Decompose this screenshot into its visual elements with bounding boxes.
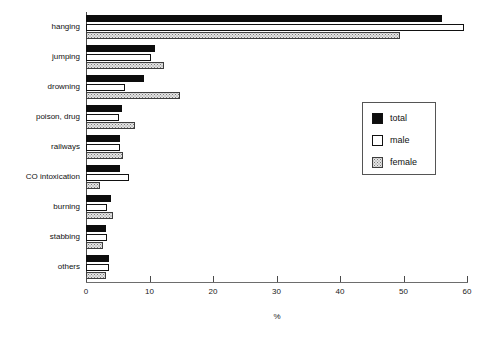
x-axis-tick [340, 276, 341, 282]
category-label: CO intoxication [26, 172, 80, 181]
x-axis-tick-label: 10 [145, 287, 154, 296]
x-axis-tick [213, 276, 214, 282]
legend-swatch-male-icon [372, 135, 383, 146]
x-axis-tick [467, 276, 468, 282]
legend-label-female: female [390, 157, 417, 167]
bar-female [86, 212, 113, 219]
bar-male [86, 84, 125, 91]
x-axis-title: % [273, 312, 280, 321]
bar-female [86, 32, 400, 39]
bar-male [86, 234, 107, 241]
x-axis-tick [150, 276, 151, 282]
x-axis-tick [277, 276, 278, 282]
bar-total [86, 195, 111, 202]
bar-male [86, 144, 120, 151]
bar-male [86, 114, 119, 121]
legend-item-male: male [372, 134, 410, 146]
x-axis-tick-label: 60 [463, 287, 472, 296]
bar-total [86, 75, 144, 82]
bar-total [86, 135, 120, 142]
bar-male [86, 264, 109, 271]
bar-male [86, 204, 107, 211]
legend-item-female: female [372, 156, 417, 168]
category-axis-labels: hangingjumpingdrowningpoison, drugrailwa… [0, 12, 80, 282]
legend-label-male: male [390, 135, 410, 145]
bar-female [86, 272, 106, 279]
category-label: drowning [48, 82, 80, 91]
x-axis-tick [404, 276, 405, 282]
bar-male [86, 54, 151, 61]
category-label: poison, drug [36, 112, 80, 121]
bar-female [86, 182, 100, 189]
bar-male [86, 174, 129, 181]
x-axis-tick-label: 20 [209, 287, 218, 296]
bar-female [86, 92, 180, 99]
bar-female [86, 152, 123, 159]
bar-male [86, 24, 464, 31]
bar-total [86, 105, 122, 112]
category-label: railways [51, 142, 80, 151]
x-axis-line [86, 282, 468, 283]
category-label: stabbing [50, 232, 80, 241]
x-axis-tick-label: 40 [336, 287, 345, 296]
category-label: burning [53, 202, 80, 211]
chart-legend: total male female [362, 102, 436, 175]
x-axis-tick-label: 50 [399, 287, 408, 296]
x-axis-tick [86, 276, 87, 282]
x-axis-tick-label: 30 [272, 287, 281, 296]
bar-female [86, 62, 164, 69]
legend-item-total: total [372, 112, 407, 124]
bar-female [86, 122, 135, 129]
legend-label-total: total [390, 113, 407, 123]
bar-total [86, 225, 106, 232]
bar-total [86, 45, 155, 52]
legend-swatch-female-icon [372, 157, 383, 168]
bar-total [86, 255, 109, 262]
x-axis-tick-label: 0 [84, 287, 88, 296]
category-label: jumping [52, 52, 80, 61]
bar-total [86, 15, 442, 22]
category-label: others [58, 262, 80, 271]
bar-total [86, 165, 120, 172]
legend-swatch-total-icon [372, 113, 383, 124]
bar-female [86, 242, 103, 249]
bar-chart: hangingjumpingdrowningpoison, drugrailwa… [0, 0, 486, 339]
category-label: hanging [52, 22, 80, 31]
